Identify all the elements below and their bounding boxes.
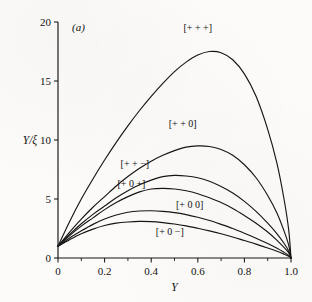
x-tick-label: 0.6 bbox=[191, 265, 205, 277]
y-tick-label: 20 bbox=[40, 16, 52, 28]
curve-++0 bbox=[58, 146, 291, 258]
y-tick-label: 15 bbox=[40, 75, 52, 87]
panel-label: (a) bbox=[72, 21, 85, 34]
curve-label: [+ 0 +] bbox=[117, 178, 145, 189]
curve-++- bbox=[58, 175, 291, 258]
x-axis-title: Y bbox=[171, 281, 179, 293]
x-tick-label: 0.4 bbox=[144, 265, 158, 277]
curve-label: [+ 0 0] bbox=[176, 199, 203, 210]
y-tick-label: 0 bbox=[46, 252, 52, 264]
x-tick-label: 0.8 bbox=[238, 265, 252, 277]
y-tick-label: 5 bbox=[46, 193, 52, 205]
y-axis-title: Y/ξ bbox=[23, 134, 38, 147]
curve-label: [+ 0 −] bbox=[156, 226, 184, 237]
curve-+0+ bbox=[58, 188, 291, 258]
curve-label: [+ + 0] bbox=[169, 118, 197, 129]
figure-panel-a: 0510152000.20.40.60.81.0YY/ξ(a)[+ + +][+… bbox=[0, 0, 312, 302]
x-tick-label: 1.0 bbox=[284, 265, 298, 277]
x-tick-label: 0 bbox=[55, 265, 61, 277]
y-tick-label: 10 bbox=[40, 134, 52, 146]
curve-label: [+ + −] bbox=[121, 158, 150, 169]
curve-label: [+ + +] bbox=[184, 22, 213, 33]
line-chart: 0510152000.20.40.60.81.0YY/ξ(a)[+ + +][+… bbox=[0, 0, 312, 302]
x-tick-label: 0.2 bbox=[98, 265, 112, 277]
